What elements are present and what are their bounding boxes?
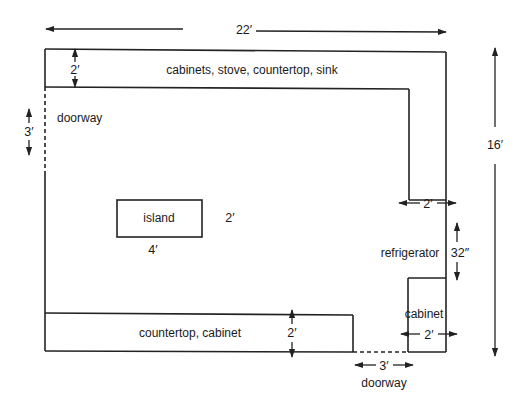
left-doorway-width-label: 3′ [24, 125, 34, 139]
left-doorway-label: doorway [57, 111, 102, 125]
lower-cabinet-depth-label: 2′ [424, 328, 434, 342]
refrigerator: refrigerator 32″ [381, 223, 470, 280]
right-upper-depth-label: 2′ [423, 197, 433, 211]
refrigerator-width-label: 32″ [451, 246, 470, 260]
island-label: island [143, 211, 174, 225]
overall-width-label: 22′ [236, 23, 253, 37]
right-lower-cabinet: cabinet 2′ [401, 278, 457, 352]
top-counter-inner-edge [45, 87, 409, 89]
width-arrow-right [256, 31, 446, 32]
overall-width-dimension: 22′ [46, 23, 446, 37]
island: island 2′ 4′ [117, 200, 235, 257]
overall-height-dimension: 16′ [487, 48, 504, 356]
refrigerator-label: refrigerator [381, 246, 440, 260]
kitchen-floor-plan: 22′ 16′ cabinets, stove, countertop, sin… [0, 0, 530, 405]
bottom-wall [45, 351, 353, 352]
top-counter-depth-label: 2′ [70, 63, 80, 77]
bottom-counter: countertop, cabinet 2′ [45, 310, 353, 357]
right-upper-cabinet-dimension: 2′ [399, 197, 456, 211]
bottom-counter-label: countertop, cabinet [139, 326, 242, 340]
top-counter-label: cabinets, stove, countertop, sink [166, 63, 338, 77]
left-doorway: doorway 3′ [24, 109, 102, 155]
overall-height-label: 16′ [487, 138, 504, 152]
bottom-counter-top-edge [45, 313, 353, 315]
island-width-label: 4′ [148, 243, 158, 257]
bottom-counter-depth-label: 2′ [287, 326, 297, 340]
top-wall-outer [45, 49, 446, 52]
bottom-doorway-label: doorway [361, 376, 406, 390]
bottom-doorway: 3′ doorway [353, 352, 413, 390]
bottom-doorway-width-label: 3′ [379, 359, 389, 373]
lower-cabinet-label: cabinet [405, 307, 444, 321]
island-depth-label: 2′ [225, 211, 235, 225]
top-counter-run: cabinets, stove, countertop, sink 2′ [45, 49, 446, 200]
room-outline [45, 49, 446, 352]
